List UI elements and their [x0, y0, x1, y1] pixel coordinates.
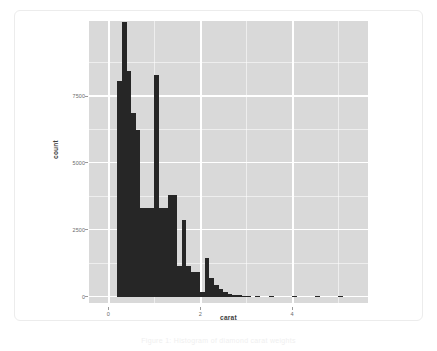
y-axis-tick-mark — [85, 96, 88, 97]
x-axis-title: carat — [89, 314, 368, 321]
histogram-bar — [292, 296, 297, 297]
x-axis-tick-mark — [200, 307, 201, 310]
y-axis-tick-label: 7500 — [73, 94, 85, 99]
figure-card: 0250050007500 count 024 carat — [14, 10, 423, 321]
y-axis-tick-label: 5000 — [73, 161, 85, 166]
x-axis-tick-mark — [108, 307, 109, 310]
histogram-bar — [246, 296, 251, 297]
y-axis-tick-mark — [85, 162, 88, 163]
figure-caption-strip: Figure 1: Histogram of diamond carat wei… — [0, 338, 437, 351]
histogram-bar — [269, 296, 274, 297]
y-axis-tick-label: 2500 — [73, 228, 85, 233]
figure-caption: Figure 1: Histogram of diamond carat wei… — [141, 338, 295, 344]
histogram-bar — [255, 296, 260, 297]
histogram-bars — [89, 21, 368, 303]
y-axis-tick-labels: 0250050007500 — [65, 21, 85, 303]
chart-panel — [89, 21, 368, 303]
chart-plot-area: 0250050007500 count 024 carat — [15, 11, 422, 320]
x-axis-tick-mark — [292, 307, 293, 310]
histogram-bar — [338, 296, 343, 297]
y-axis-title: count — [52, 140, 59, 159]
histogram-bar — [315, 296, 320, 297]
y-axis-tick-mark — [85, 296, 88, 297]
y-axis-tick-mark — [85, 229, 88, 230]
y-axis-tick-marks — [85, 21, 89, 303]
